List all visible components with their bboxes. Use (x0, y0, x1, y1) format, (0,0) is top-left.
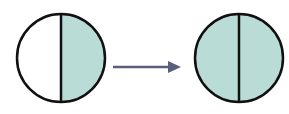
fraction-diagram (0, 0, 289, 114)
right-arrow-icon (113, 61, 181, 73)
left-circle-half-shaded (17, 14, 105, 102)
left-circle-shaded-half (61, 14, 105, 102)
right-circle-fully-shaded (195, 14, 283, 102)
